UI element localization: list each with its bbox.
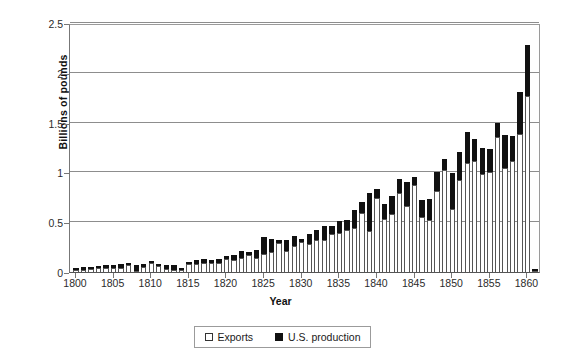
bar-segment-exports	[164, 269, 169, 272]
bar-segment-exports	[525, 96, 530, 272]
bar-segment-exports	[216, 263, 221, 272]
bar-segment-exports	[307, 244, 312, 272]
bar	[495, 123, 500, 272]
y-axis-tick-mark	[64, 223, 69, 224]
bar	[81, 267, 86, 272]
bar	[434, 172, 439, 272]
bar	[314, 230, 319, 272]
bar-segment-exports	[442, 170, 447, 272]
bar-segment-us-production	[412, 177, 417, 185]
bar-segment-exports	[269, 252, 274, 272]
x-axis-tick-mark	[489, 273, 490, 278]
bar-segment-exports	[427, 220, 432, 272]
bar	[465, 132, 470, 272]
filled-square-icon	[275, 333, 283, 341]
x-axis-tick-label: 1840	[364, 277, 387, 289]
bar	[472, 139, 477, 272]
bar-segment-us-production	[495, 123, 500, 138]
bar-segment-exports	[254, 258, 259, 272]
bar-segment-us-production	[322, 226, 327, 239]
bar-segment-exports	[118, 268, 123, 272]
bar	[337, 221, 342, 272]
x-axis-tick-label: 1820	[214, 277, 237, 289]
y-axis-tick-mark	[64, 124, 69, 125]
bar	[254, 250, 259, 272]
bar-segment-exports	[156, 266, 161, 272]
bar-segment-exports	[126, 265, 131, 272]
bar-segment-exports	[532, 271, 537, 272]
bar-segment-exports	[171, 270, 176, 272]
bar-segment-exports	[412, 185, 417, 272]
bar-segment-exports	[231, 260, 236, 272]
legend-label-us-production: U.S. production	[288, 331, 360, 343]
bar-segment-us-production	[292, 236, 297, 246]
bar	[156, 264, 161, 272]
x-axis-tick-label: 1800	[63, 277, 86, 289]
bar	[126, 263, 131, 272]
bar-segment-exports	[359, 213, 364, 272]
bar	[88, 267, 93, 272]
bar-segment-us-production	[510, 136, 515, 161]
bar	[389, 196, 394, 272]
bar	[487, 149, 492, 272]
x-axis-tick-label: 1835	[327, 277, 350, 289]
bar	[231, 255, 236, 272]
bar-segment-exports	[261, 254, 266, 272]
bar	[171, 265, 176, 272]
bar	[73, 268, 78, 272]
bar	[427, 199, 432, 272]
bar-segment-exports	[246, 255, 251, 272]
cotton-chart-figure: Billions of pounds 00.511.522.5 18001805…	[0, 0, 561, 361]
bar-segment-exports	[472, 161, 477, 272]
bar-segment-exports	[209, 263, 214, 272]
bar	[111, 265, 116, 272]
bar-segment-us-production	[442, 159, 447, 169]
bar	[209, 260, 214, 272]
bar	[517, 92, 522, 272]
bar	[352, 210, 357, 272]
bar	[502, 135, 507, 272]
bar-segment-us-production	[337, 221, 342, 234]
bar-segment-exports	[434, 191, 439, 272]
bar-segment-exports	[367, 231, 372, 272]
bar-segment-us-production	[450, 173, 455, 209]
x-axis-tick-mark	[75, 273, 76, 278]
x-axis-tick-mark	[526, 273, 527, 278]
bar-series-group	[70, 25, 539, 272]
bar	[276, 240, 281, 272]
bar-segment-exports	[96, 268, 101, 272]
x-axis-tick-mark	[414, 273, 415, 278]
y-axis-tick-mark	[64, 24, 69, 25]
bar-segment-us-production	[329, 226, 334, 233]
bar	[103, 265, 108, 272]
bar	[419, 200, 424, 272]
bar	[480, 148, 485, 272]
x-axis-tick-label: 1810	[139, 277, 162, 289]
legend-label-exports: Exports	[218, 331, 254, 343]
bar-segment-us-production	[382, 204, 387, 219]
bar-segment-us-production	[269, 239, 274, 252]
bar-segment-us-production	[427, 199, 432, 219]
bar-segment-exports	[397, 193, 402, 272]
bar-segment-us-production	[352, 210, 357, 228]
x-axis-tick-label: 1825	[251, 277, 274, 289]
y-axis-tick-label: 1.5	[36, 119, 63, 130]
bar-segment-us-production	[344, 220, 349, 230]
bar-segment-exports	[352, 228, 357, 272]
bar-segment-us-production	[397, 179, 402, 193]
bar	[442, 159, 447, 272]
bar	[261, 237, 266, 272]
bar-segment-exports	[88, 269, 93, 272]
gridline	[70, 22, 539, 23]
x-axis-tick-label: 1855	[477, 277, 500, 289]
y-axis-tick-label: 2	[36, 69, 63, 80]
bar	[322, 226, 327, 272]
bar-segment-exports	[111, 268, 116, 272]
bar	[404, 182, 409, 272]
bar-segment-exports	[450, 209, 455, 272]
bar	[457, 152, 462, 272]
bar-segment-us-production	[374, 189, 379, 198]
bar	[450, 173, 455, 272]
x-axis-tick-label: 1805	[101, 277, 124, 289]
bar-segment-us-production	[472, 139, 477, 162]
